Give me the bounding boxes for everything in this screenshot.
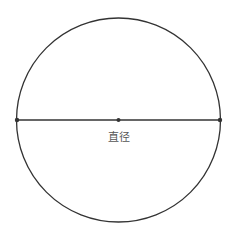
diameter-label: 直径 (104, 128, 134, 144)
center-dot (117, 118, 121, 122)
left-endpoint-dot (15, 118, 19, 122)
circle-diagram (0, 0, 236, 238)
right-endpoint-dot (218, 118, 222, 122)
